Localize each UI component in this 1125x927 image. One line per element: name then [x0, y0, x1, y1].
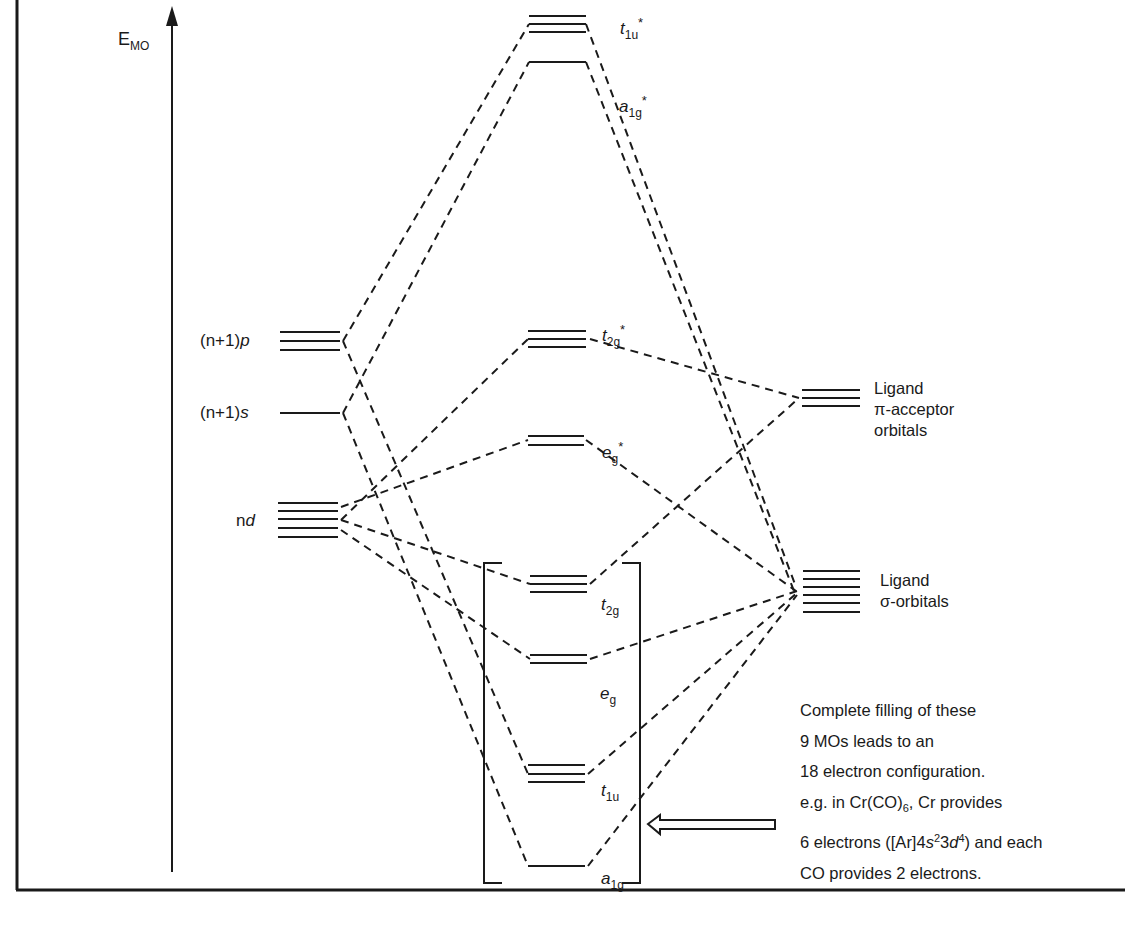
label-ligand-sigma: Ligand σ-orbitals — [880, 570, 949, 612]
note-line2: 9 MOs leads to an — [800, 726, 1043, 757]
level-ligand-pi — [802, 390, 860, 406]
label-t2g-star: t2g* — [602, 323, 625, 348]
note-line6: CO provides 2 electrons. — [800, 858, 1043, 889]
ligand-sigma-line2: σ-orbitals — [880, 591, 949, 612]
level-t1u-star — [529, 16, 586, 32]
ns-prefix: (n+1) — [200, 403, 240, 422]
explanatory-note: Complete filling of these 9 MOs leads to… — [800, 695, 1043, 888]
ligand-pi-line1: Ligand — [874, 378, 954, 399]
note-line5: 6 electrons ([Ar]4s23d4) and each — [800, 823, 1043, 858]
ligand-sigma-line1: Ligand — [880, 570, 949, 591]
ns-italic: s — [240, 403, 249, 422]
axis-label-sub: MO — [130, 39, 149, 53]
level-eg-star — [528, 436, 584, 445]
axis-label-main: E — [118, 29, 130, 49]
level-metal-nd — [278, 503, 338, 537]
energy-levels — [278, 16, 860, 866]
level-t2g-star — [528, 331, 586, 347]
np-italic: p — [240, 331, 249, 350]
label-metal-np: (n+1)p — [200, 332, 250, 349]
level-eg — [530, 655, 587, 663]
np-prefix: (n+1) — [200, 331, 240, 350]
hollow-arrow-icon — [648, 815, 775, 834]
note-line1: Complete filling of these — [800, 695, 1043, 726]
energy-axis-label: EMO — [118, 30, 149, 52]
level-t1u — [528, 765, 585, 782]
ligand-pi-line3: orbitals — [874, 420, 954, 441]
label-t2g: t2g — [601, 592, 619, 617]
label-t1u-star: t1u* — [620, 16, 643, 41]
label-metal-nd: nd — [236, 512, 255, 529]
note-line3: 18 electron configuration. — [800, 756, 1043, 787]
label-metal-ns: (n+1)s — [200, 404, 249, 421]
nd-italic: d — [245, 511, 254, 530]
level-ligand-sigma — [803, 571, 860, 612]
label-ligand-pi: Ligand π-acceptor orbitals — [874, 378, 954, 441]
level-metal-np — [280, 332, 340, 350]
label-eg: eg — [600, 681, 616, 706]
label-t1u: t1u — [601, 778, 619, 803]
label-a1g-star: a1g* — [619, 94, 647, 119]
note-line4: e.g. in Cr(CO)6, Cr provides — [800, 787, 1043, 824]
level-t2g — [530, 576, 587, 592]
energy-axis-arrow — [166, 6, 178, 872]
ligand-pi-line2: π-acceptor — [874, 399, 954, 420]
label-a1g: a1g — [601, 866, 624, 891]
label-eg-star: eg* — [602, 440, 623, 465]
